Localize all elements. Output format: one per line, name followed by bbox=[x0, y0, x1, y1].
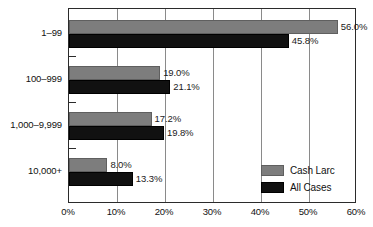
y-axis-tick bbox=[69, 56, 76, 57]
bar-value-label-all-cases: 21.1% bbox=[173, 80, 199, 94]
bar-cash-larc bbox=[69, 112, 152, 126]
x-tick-label: 30% bbox=[203, 206, 222, 217]
bar-cash-larc bbox=[69, 20, 338, 34]
bar-group: 19.0%21.1% bbox=[69, 66, 355, 94]
bar-value-label-cash-larc: 17.2% bbox=[155, 112, 181, 126]
bar-cash-larc bbox=[69, 158, 107, 172]
legend-label-all-cases: All Cases bbox=[290, 182, 331, 193]
bar-value-label-cash-larc: 56.0% bbox=[341, 20, 367, 34]
bar-value-label-all-cases: 19.8% bbox=[167, 126, 193, 140]
bar-cash-larc bbox=[69, 66, 160, 80]
bar-group: 17.2%19.8% bbox=[69, 112, 355, 140]
bar-all-cases bbox=[69, 126, 164, 140]
bar-all-cases bbox=[69, 80, 170, 94]
bar-group: 56.0%45.8% bbox=[69, 20, 355, 48]
y-category-label: 1,000–9,999 bbox=[10, 119, 62, 130]
legend-label-cash-larc: Cash Larc bbox=[290, 165, 335, 176]
bar-value-label-all-cases: 45.8% bbox=[292, 34, 318, 48]
bar-value-label-all-cases: 13.3% bbox=[136, 172, 162, 186]
bar-all-cases bbox=[69, 34, 289, 48]
x-tick-label: 60% bbox=[347, 206, 366, 217]
bar-value-label-cash-larc: 8.0% bbox=[110, 158, 131, 172]
y-axis-tick bbox=[69, 148, 76, 149]
legend-item-all-cases: All Cases bbox=[261, 179, 335, 196]
x-tick-label: 20% bbox=[155, 206, 174, 217]
x-tick-label: 0% bbox=[61, 206, 75, 217]
legend-item-cash-larc: Cash Larc bbox=[261, 162, 335, 179]
x-tick-label: 10% bbox=[107, 206, 126, 217]
bar-value-label-cash-larc: 19.0% bbox=[163, 66, 189, 80]
y-category-label: 1–99 bbox=[41, 27, 62, 38]
gray-swatch-icon bbox=[261, 165, 284, 176]
chart-legend: Cash Larc All Cases bbox=[261, 162, 335, 196]
x-tick-label: 40% bbox=[251, 206, 270, 217]
bar-chart: 56.0%45.8%19.0%21.1%17.2%19.8%8.0%13.3% … bbox=[0, 0, 373, 227]
black-swatch-icon bbox=[261, 182, 284, 193]
y-axis-tick bbox=[69, 102, 76, 103]
y-category-label: 100–999 bbox=[26, 73, 62, 84]
bar-all-cases bbox=[69, 172, 133, 186]
x-tick-label: 50% bbox=[299, 206, 318, 217]
y-category-label: 10,000+ bbox=[28, 165, 62, 176]
